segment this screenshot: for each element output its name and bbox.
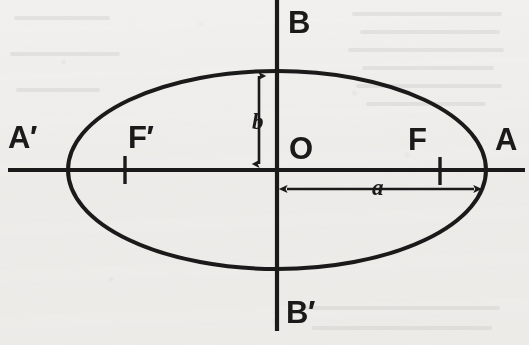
ellipse-line-art xyxy=(0,0,529,345)
label-vertex-right: A xyxy=(495,124,517,155)
label-vertex-left: A′ xyxy=(8,122,37,153)
label-covertex-bottom: B′ xyxy=(286,297,315,328)
ellipse-figure: A′ F′ O F A B B′ b a xyxy=(0,0,529,345)
label-focus-right: F xyxy=(408,124,426,155)
label-semi-major-axis: a xyxy=(372,176,384,199)
label-focus-left: F′ xyxy=(128,122,153,153)
label-covertex-top: B xyxy=(288,7,310,38)
label-semi-minor-axis: b xyxy=(252,110,264,133)
label-center: O xyxy=(289,133,313,164)
